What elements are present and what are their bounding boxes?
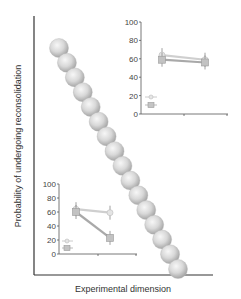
- series-line-circle: [76, 209, 110, 213]
- series-line-circle: [162, 55, 205, 60]
- legend-square-marker: [148, 103, 154, 108]
- y-tick-label: 60: [47, 208, 56, 217]
- y-tick-label: 100: [125, 18, 139, 27]
- y-tick-label: 0: [52, 250, 57, 259]
- y-tick-label: 40: [47, 222, 56, 231]
- y-tick-label: 0: [134, 110, 139, 119]
- legend-circle-marker: [65, 239, 69, 243]
- data-point-square: [202, 59, 209, 66]
- y-tick-label: 80: [47, 194, 56, 203]
- inset-top-right: 020406080100: [125, 18, 228, 119]
- data-point-square: [159, 56, 166, 63]
- inset-bottom-left: 020406080100: [43, 180, 137, 259]
- inset-top-legend: [145, 95, 157, 108]
- sphere: [169, 260, 188, 279]
- y-axis-label: Probability of undergoing reconsolidatio…: [13, 65, 23, 228]
- y-tick-label: 60: [129, 55, 138, 64]
- y-tick-label: 100: [43, 180, 57, 189]
- y-tick-label: 40: [129, 73, 138, 82]
- legend-circle-marker: [149, 95, 153, 99]
- data-point-circle: [107, 210, 113, 216]
- sphere-chain: [50, 39, 188, 279]
- inset-bottom-legend: [62, 239, 73, 251]
- data-point-square: [73, 209, 80, 216]
- legend-square-marker: [64, 246, 70, 251]
- figure: Experimental dimension Probability of un…: [0, 0, 241, 299]
- y-tick-label: 80: [129, 36, 138, 45]
- data-point-square: [107, 234, 114, 241]
- x-axis-label: Experimental dimension: [75, 284, 171, 294]
- y-tick-label: 20: [129, 92, 138, 101]
- series-line-square: [76, 212, 110, 238]
- y-tick-label: 20: [47, 236, 56, 245]
